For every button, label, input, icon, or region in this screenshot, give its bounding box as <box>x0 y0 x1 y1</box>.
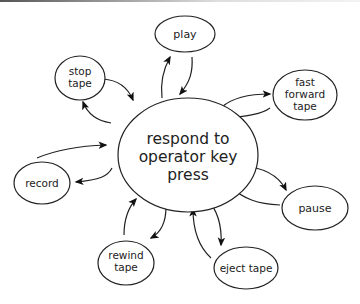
edge-play-to-respond <box>180 57 192 94</box>
node-label-line: operator key <box>139 148 238 166</box>
node-label-line: rewind <box>108 249 143 261</box>
edge-respond-to-rewind <box>151 207 166 238</box>
node-label-line: press <box>167 166 209 184</box>
node-label-line: tape <box>68 77 92 89</box>
node-label-line: pause <box>298 202 331 215</box>
node-label-line: tape <box>114 261 138 273</box>
node-eject-tape: eject tape <box>214 247 278 289</box>
node-stop-tape: stop tape <box>55 56 105 100</box>
node-label-line: play <box>173 28 197 41</box>
node-fast-forward-tape: fast forward tape <box>273 70 337 120</box>
node-label-line: eject tape <box>220 262 273 274</box>
node-rewind-tape: rewind tape <box>98 241 154 285</box>
node-label-line: record <box>25 177 59 189</box>
edge-respond-to-record <box>76 168 112 182</box>
node-label-line: forward <box>285 88 325 100</box>
node-label-line: fast <box>295 76 315 88</box>
edge-respond-to-stop <box>83 102 111 123</box>
node-respond-to-operator-key-press: respond to operator key press <box>118 98 258 212</box>
node-label-line: tape <box>293 100 317 112</box>
node-label-line: stop <box>69 65 92 77</box>
edge-respond-to-play <box>161 57 170 98</box>
edge-respond-to-fast-forward <box>222 94 270 107</box>
node-record: record <box>14 162 70 204</box>
node-play: play <box>155 16 215 52</box>
node-label-line: respond to <box>146 130 229 148</box>
state-diagram: respond to operator key press play fast … <box>0 0 360 304</box>
edge-rewind-to-respond <box>124 199 136 235</box>
edge-stop-to-respond <box>103 79 133 100</box>
node-pause: pause <box>282 186 348 230</box>
edge-eject-to-respond <box>193 209 211 258</box>
edge-record-to-respond <box>37 145 106 158</box>
